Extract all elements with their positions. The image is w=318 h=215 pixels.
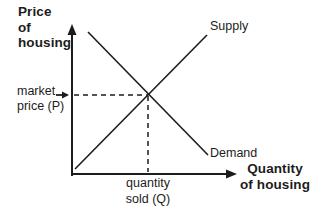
demand-curve-label: Demand — [210, 146, 257, 161]
supply-demand-diagram: Price of housing market price (P) Supply… — [0, 0, 318, 215]
y-axis-title: Price of housing — [18, 4, 71, 51]
x-axis-title: Quantity of housing — [233, 161, 317, 192]
market-price-label: market price (P) — [17, 84, 64, 114]
supply-curve — [75, 35, 207, 169]
supply-curve-label: Supply — [210, 19, 248, 34]
quantity-sold-label: quantity sold (Q) — [104, 176, 192, 207]
